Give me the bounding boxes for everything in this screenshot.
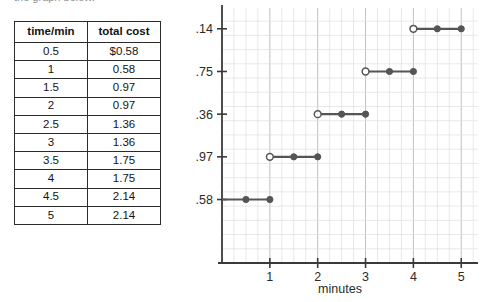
table-row: 41.75	[15, 170, 161, 188]
data-point-closed	[315, 154, 321, 160]
step-function-chart: 0.580.971.361.752.14 12345 minutes	[196, 0, 482, 302]
table-cell-cost: 2.14	[88, 206, 161, 224]
table-row: 2.51.36	[15, 115, 161, 133]
data-point-closed	[291, 154, 297, 160]
data-point-closed	[410, 68, 416, 74]
data-point-closed	[386, 68, 392, 74]
table-column-header-time: time/min	[15, 22, 88, 43]
table-cell-time: 4.5	[15, 188, 88, 206]
data-point-open	[314, 111, 321, 118]
grid-lines-vertical	[234, 8, 473, 263]
grid-lines-horizontal	[222, 21, 478, 249]
table-row: 3.51.75	[15, 152, 161, 170]
table-cell-cost: 1.75	[88, 170, 161, 188]
table-cell-cost: 0.58	[88, 61, 161, 79]
table-cell-time: 1.5	[15, 79, 88, 97]
table-cell-time: 5	[15, 206, 88, 224]
table-column-header-cost: total cost	[88, 22, 161, 43]
x-axis-title: minutes	[318, 282, 362, 296]
y-axis-tick-label: 1.75	[196, 65, 213, 79]
table-cell-cost: $0.58	[88, 43, 161, 61]
table-cell-time: 0.5	[15, 43, 88, 61]
data-point-closed	[267, 196, 273, 202]
table-cell-cost: 1.36	[88, 115, 161, 133]
y-axis-tick-labels: 0.580.971.361.752.14	[196, 22, 213, 207]
data-point-open	[362, 68, 369, 75]
x-axis-tick-label: 1	[266, 270, 273, 284]
table-row: 1.50.97	[15, 79, 161, 97]
x-axis-tick-labels: 12345	[266, 270, 464, 284]
table-cell-cost: 1.36	[88, 133, 161, 151]
table-cell-time: 1	[15, 61, 88, 79]
x-axis-tick-label: 3	[362, 270, 369, 284]
table-row: 4.52.14	[15, 188, 161, 206]
data-point-closed	[339, 111, 345, 117]
table-cell-cost: 1.75	[88, 152, 161, 170]
data-point-closed	[434, 26, 440, 32]
data-point-open	[410, 25, 417, 32]
data-point-closed	[458, 26, 464, 32]
data-point-closed	[362, 111, 368, 117]
cost-data-table: time/min total cost 0.5$0.5810.581.50.97…	[14, 21, 161, 225]
table-cell-cost: 0.97	[88, 79, 161, 97]
x-axis-tick-label: 4	[410, 270, 417, 284]
y-axis-tick-label: 1.36	[196, 108, 213, 122]
table-row: 10.58	[15, 61, 161, 79]
table-row: 52.14	[15, 206, 161, 224]
table-row: 0.5$0.58	[15, 43, 161, 61]
chart-canvas: 0.580.971.361.752.14 12345 minutes	[196, 0, 482, 302]
data-point-open	[266, 153, 273, 160]
table-cell-time: 3.5	[15, 152, 88, 170]
table-cell-time: 4	[15, 170, 88, 188]
table-row: 31.36	[15, 133, 161, 151]
data-point-closed	[243, 196, 249, 202]
table-cell-time: 3	[15, 133, 88, 151]
x-axis-tick-label: 5	[458, 270, 465, 284]
table-cell-time: 2	[15, 97, 88, 115]
y-axis-tick-label: 0.97	[196, 150, 213, 164]
table-cell-time: 2.5	[15, 115, 88, 133]
y-axis-tick-label: 2.14	[196, 22, 213, 36]
table-cell-cost: 2.14	[88, 188, 161, 206]
y-axis-tick-label: 0.58	[196, 193, 213, 207]
table-row: 20.97	[15, 97, 161, 115]
table-header-row: time/min total cost	[15, 22, 161, 43]
table-body: 0.5$0.5810.581.50.9720.972.51.3631.363.5…	[15, 43, 161, 225]
axis-lines	[218, 5, 478, 263]
table-cell-cost: 0.97	[88, 97, 161, 115]
